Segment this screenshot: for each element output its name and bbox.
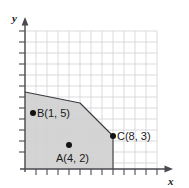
x-axis-ticks xyxy=(36,169,157,175)
point-c: C(8, 3) xyxy=(110,130,151,142)
point-c-label: C(8, 3) xyxy=(117,130,151,142)
coordinate-plane-figure: y x B(1, 5) C(8, 3) A(4, 2) xyxy=(0,0,189,188)
x-axis-label: x xyxy=(167,175,174,187)
figure-container: y x B(1, 5) C(8, 3) A(4, 2) xyxy=(0,0,189,188)
point-b-label: B(1, 5) xyxy=(37,107,70,119)
point-b-marker xyxy=(30,110,36,116)
y-axis-label: y xyxy=(10,12,17,24)
point-a-marker xyxy=(66,142,72,148)
point-c-marker xyxy=(110,133,116,139)
point-a-label: A(4, 2) xyxy=(56,152,89,164)
y-axis-ticks xyxy=(19,31,25,152)
